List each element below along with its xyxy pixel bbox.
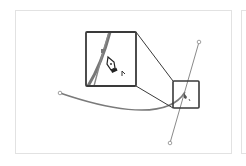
small-focus-box <box>173 81 199 108</box>
diagram-svg <box>0 0 246 166</box>
bezier-curve <box>60 92 185 110</box>
callout-connector-bottom <box>136 86 173 108</box>
handle-bottom-point[interactable] <box>168 141 172 145</box>
handle-top-point[interactable] <box>197 40 201 44</box>
callout-connector-top <box>136 32 173 81</box>
small-pen-cursor-icon <box>184 93 190 101</box>
magnified-anchor <box>101 49 105 53</box>
anchor-start-point[interactable] <box>58 91 62 95</box>
